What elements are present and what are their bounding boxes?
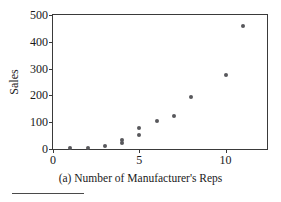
y-axis-tick-label: 0	[42, 143, 48, 155]
scatter-plot-figure: Sales 0100200300400500 0510 (a) Number o…	[0, 0, 281, 202]
y-axis-tick-label: 400	[30, 36, 48, 48]
data-point	[189, 95, 193, 99]
y-axis-tick-label: 100	[30, 116, 48, 128]
x-axis-tick-label: 0	[50, 154, 56, 166]
footnote-rule	[12, 193, 84, 194]
data-point	[137, 126, 141, 130]
y-axis-tick-label: 500	[30, 9, 48, 21]
y-axis-tick-label: 200	[30, 89, 48, 101]
x-axis-tick-label: 5	[136, 154, 142, 166]
x-axis-tick-label: 10	[220, 154, 232, 166]
data-point	[155, 119, 159, 123]
data-point	[224, 73, 228, 77]
y-axis-tick-label: 300	[30, 63, 48, 75]
data-point	[137, 133, 141, 137]
data-points-layer	[53, 15, 267, 149]
figure-caption: (a) Number of Manufacturer's Reps	[0, 172, 281, 184]
data-point	[241, 24, 245, 28]
plot-area: 0100200300400500 0510	[52, 14, 268, 150]
y-axis-title: Sales	[6, 14, 22, 150]
y-axis-title-label: Sales	[7, 69, 22, 94]
data-point	[103, 144, 107, 148]
data-point	[172, 114, 176, 118]
data-point	[68, 146, 72, 150]
data-point	[86, 146, 90, 150]
